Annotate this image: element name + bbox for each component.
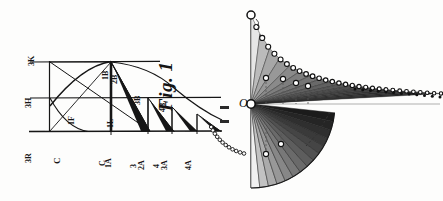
tail-dot [439, 96, 442, 99]
curve-marker [350, 83, 354, 87]
curve-marker [310, 74, 315, 79]
curve-marker [317, 76, 322, 81]
curve-marker [357, 84, 361, 88]
curve-marker [364, 85, 368, 89]
right-figure-pivot-marker [247, 100, 255, 108]
left-figure-label: 3H [25, 98, 33, 108]
left-figure-label: 1L [107, 119, 115, 128]
tail-dot [392, 91, 395, 94]
inner-marker [280, 76, 285, 81]
curve-marker [439, 92, 442, 95]
scanned-plate: 3K3H3RC1F1B2B1L3B4BC1A32A43A4A Fig. 1 O [0, 0, 443, 201]
curve-marker [323, 78, 327, 82]
left-figure-label: 1F [68, 116, 76, 125]
pivot-label-o: O [239, 97, 248, 109]
left-figure-label: 1A [105, 158, 113, 168]
inner-marker [263, 151, 268, 156]
inner-marker [278, 141, 283, 146]
tail-dot [408, 93, 411, 96]
left-figure-label: 3A [161, 160, 169, 170]
plate-vector-layer [0, 0, 443, 201]
left-figure-label: 3R [25, 153, 33, 163]
right-figure-lower-fan [251, 104, 335, 188]
curve-marker [425, 91, 429, 95]
curve-marker [260, 35, 265, 40]
curve-marker [330, 79, 334, 83]
lower-fan-marker [234, 149, 238, 153]
tail-dot [423, 94, 426, 97]
tail-dot [415, 93, 418, 96]
lower-fan-marker [242, 152, 246, 156]
curve-marker [291, 66, 296, 71]
curve-marker [272, 51, 277, 56]
tail-dot [369, 89, 372, 92]
curve-marker [304, 72, 309, 77]
left-figure-label: 2B [111, 75, 119, 84]
left-figure-baseline-ticks [111, 132, 197, 136]
inner-marker [263, 75, 268, 80]
curve-marker [343, 82, 347, 86]
left-figure-label: C [53, 158, 62, 165]
left-figure-label: 3K [28, 56, 36, 66]
curve-marker [405, 89, 409, 93]
curve-marker [337, 81, 341, 85]
lower-fan-marker [238, 151, 242, 155]
lower-fan-marker [224, 143, 228, 147]
tail-dot [377, 90, 380, 93]
curve-marker [278, 57, 283, 62]
inner-marker [305, 83, 310, 88]
curve-marker [284, 62, 289, 67]
tail-dot [354, 88, 357, 91]
tail-dot [431, 95, 434, 98]
left-figure-label: 1B [102, 71, 110, 80]
plate-margin-dashes [220, 106, 229, 123]
tail-dot [400, 92, 403, 95]
left-figure-label: 3B [134, 96, 142, 105]
curve-marker [432, 91, 435, 94]
left-figure-label: 2A [138, 160, 146, 170]
left-figure-label: 4A [185, 160, 193, 170]
lower-fan-marker [227, 146, 231, 150]
tail-dot [384, 90, 387, 93]
figure-caption: Fig. 1 [156, 62, 175, 111]
curve-marker [412, 90, 416, 94]
lower-fan-marker [231, 148, 235, 152]
curve-marker [419, 91, 423, 95]
curve-marker [297, 69, 302, 74]
tail-dot [361, 88, 364, 91]
curve-marker [266, 44, 271, 49]
inner-marker [293, 80, 298, 85]
